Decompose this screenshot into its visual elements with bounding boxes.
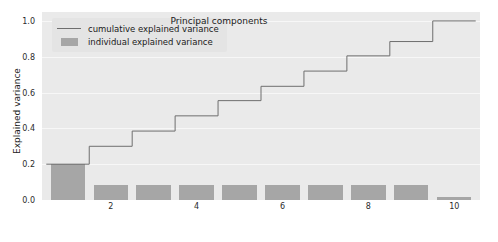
legend-label-individual: individual explained variance — [88, 37, 213, 47]
y-tick-label: 0.0 — [22, 196, 35, 205]
x-tick-label: 2 — [108, 202, 113, 211]
x-axis-label: Principal components — [0, 16, 438, 26]
x-tick-label: 10 — [449, 202, 459, 211]
x-tick-label: 8 — [366, 202, 371, 211]
y-axis-label: Explained variance — [12, 36, 22, 186]
figure: 0.00.20.40.60.81.0 Explained variance cu… — [0, 0, 498, 242]
y-tick-label: 0.8 — [22, 52, 35, 61]
y-tick-label: 0.2 — [22, 160, 35, 169]
y-tick-label: 0.6 — [22, 88, 35, 97]
legend-patch-icon — [57, 36, 81, 47]
y-tick-label: 0.4 — [22, 124, 35, 133]
x-axis: 246810 — [42, 200, 480, 230]
plot-area: cumulative explained variance individual… — [42, 12, 480, 200]
legend-item-individual: individual explained variance — [57, 35, 219, 48]
x-tick-label: 4 — [194, 202, 199, 211]
x-tick-label: 6 — [280, 202, 285, 211]
